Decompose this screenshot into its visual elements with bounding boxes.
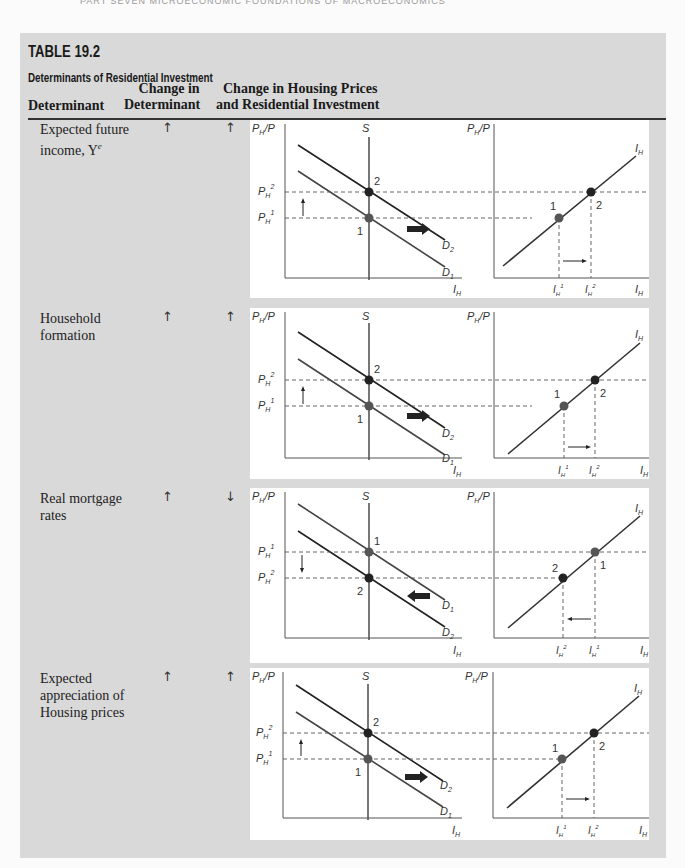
row-1-diagram-svg: PH/P S PH2 PH1 2 1 D2 D1 IH PH/P — [250, 120, 649, 298]
svg-text:1: 1 — [600, 559, 606, 571]
running-head: PART SEVEN MICROECONOMIC FOUNDATIONS OF … — [80, 0, 446, 6]
row-3-result-arrow: ↓ — [225, 489, 236, 504]
row-3-change-arrow: ↑ — [162, 489, 173, 504]
svg-text:PH/P: PH/P — [465, 670, 488, 684]
svg-text:PH/P: PH/P — [252, 490, 275, 504]
svg-text:1: 1 — [374, 535, 380, 547]
investment-graph: PH/P IH 1 2 IH1 IH2 IH — [467, 122, 649, 297]
row-4-diagram: PH/P S PH2 PH1 2 1 D2 D1 IH PH/P — [250, 668, 649, 840]
row-3-label-line1: Real mortgage — [40, 490, 210, 507]
svg-text:IH: IH — [640, 464, 649, 478]
svg-text:2: 2 — [374, 363, 380, 375]
svg-text:PH1: PH1 — [258, 209, 274, 225]
svg-text:PH/P: PH/P — [252, 310, 275, 324]
svg-text:PH/P: PH/P — [467, 310, 490, 324]
row-1-diagram: PH/P S PH2 PH1 2 1 D2 D1 IH PH/P — [250, 120, 649, 298]
svg-text:IH: IH — [453, 644, 462, 658]
svg-text:S: S — [362, 670, 370, 682]
column-header-determinant: Determinant — [28, 98, 104, 114]
svg-text:D2: D2 — [440, 779, 452, 793]
column-header-result-line2: and Residential Investment — [216, 97, 379, 113]
svg-text:PH/P: PH/P — [252, 670, 275, 684]
row-3-label-line2: rates — [40, 507, 210, 524]
housing-market-graph: PH/P S PH2 PH1 2 1 D2 D1 IH — [252, 310, 649, 478]
row-1-result-arrow: ↑ — [225, 120, 236, 135]
svg-text:PH2: PH2 — [256, 724, 272, 740]
svg-text:IH2: IH2 — [589, 464, 600, 478]
svg-text:IH: IH — [453, 464, 462, 478]
column-header-change-line2: Determinant — [124, 97, 200, 113]
svg-text:IH2: IH2 — [556, 644, 567, 658]
row-4-diagram-svg: PH/P S PH2 PH1 2 1 D2 D1 IH PH/P — [250, 668, 649, 840]
row-2-label-line2: formation — [40, 327, 210, 344]
svg-text:IH: IH — [452, 824, 461, 838]
svg-text:S: S — [362, 490, 370, 502]
row-4-determinant: Expected appreciation of Housing prices — [40, 670, 210, 721]
svg-text:PH2: PH2 — [258, 569, 274, 585]
svg-text:2: 2 — [357, 585, 363, 597]
svg-text:PH1: PH1 — [256, 750, 272, 766]
svg-text:1: 1 — [355, 766, 361, 778]
row-1-change-arrow: ↑ — [162, 120, 173, 135]
row-1-determinant: Expected future income, Ye — [40, 121, 210, 159]
row-3-diagram: PH/P S PH1 PH2 1 2 D1 D2 IH PH/P — [250, 488, 649, 663]
row-2-label-line1: Household — [40, 310, 210, 327]
row-1-label-sup: e — [98, 141, 102, 151]
svg-text:1: 1 — [550, 200, 556, 212]
row-2-diagram: PH/P S PH2 PH1 2 1 D2 D1 IH PH/P — [250, 308, 649, 479]
svg-text:2: 2 — [552, 562, 558, 574]
row-2-diagram-svg: PH/P S PH2 PH1 2 1 D2 D1 IH PH/P — [250, 308, 649, 479]
housing-market-graph: PH/P S PH2 PH1 2 1 D2 D1 IH — [252, 122, 649, 297]
column-header-change-line1: Change in — [124, 81, 200, 97]
svg-text:PH2: PH2 — [258, 183, 274, 199]
investment-graph: PH/P IH 2 1 IH2 IH1 IH — [467, 490, 649, 658]
svg-text:IH: IH — [635, 328, 644, 342]
svg-text:IH: IH — [639, 824, 648, 838]
housing-market-graph: PH/P S PH1 PH2 1 2 D1 D2 IH — [252, 490, 649, 658]
svg-text:IH1: IH1 — [558, 464, 568, 478]
svg-text:IH: IH — [635, 283, 644, 297]
row-4-change-arrow: ↑ — [162, 669, 173, 684]
svg-text:1: 1 — [357, 225, 363, 237]
svg-text:2: 2 — [600, 387, 606, 399]
svg-text:PH/P: PH/P — [252, 122, 275, 136]
row-1-label-line2: income, Ye — [40, 138, 210, 159]
svg-text:1: 1 — [552, 742, 558, 754]
svg-text:2: 2 — [373, 716, 379, 728]
row-3-determinant: Real mortgage rates — [40, 490, 210, 524]
svg-text:2: 2 — [374, 175, 380, 187]
column-header-change: Change in Determinant — [124, 81, 200, 113]
svg-text:IH: IH — [640, 644, 649, 658]
svg-text:D2: D2 — [442, 239, 454, 253]
svg-text:2: 2 — [599, 740, 605, 752]
svg-text:S: S — [362, 122, 370, 134]
column-header-result: Change in Housing Prices and Residential… — [216, 81, 379, 113]
svg-text:PH1: PH1 — [258, 543, 274, 559]
row-2-change-arrow: ↑ — [162, 309, 173, 324]
row-2-determinant: Household formation — [40, 310, 210, 344]
row-4-label-line3: Housing prices — [40, 704, 210, 721]
svg-text:PH2: PH2 — [258, 371, 274, 387]
svg-text:IH: IH — [635, 502, 644, 516]
row-3-diagram-svg: PH/P S PH1 PH2 1 2 D1 D2 IH PH/P — [250, 488, 649, 663]
svg-text:IH2: IH2 — [588, 824, 599, 838]
investment-graph: PH/P IH 1 2 IH1 IH2 IH — [465, 670, 649, 838]
column-header-result-line1: Change in Housing Prices — [216, 81, 379, 97]
svg-text:PH/P: PH/P — [467, 490, 490, 504]
svg-text:IH1: IH1 — [553, 283, 563, 297]
svg-text:PH1: PH1 — [258, 397, 274, 413]
svg-text:D1: D1 — [442, 266, 454, 280]
housing-market-graph: PH/P S PH2 PH1 2 1 D2 D1 IH — [252, 670, 649, 838]
row-1-label-line1: Expected future — [40, 121, 210, 138]
svg-text:IH2: IH2 — [585, 283, 596, 297]
svg-text:IH1: IH1 — [556, 824, 566, 838]
svg-text:S: S — [362, 310, 370, 322]
svg-text:D2: D2 — [442, 626, 454, 640]
svg-text:PH/P: PH/P — [467, 122, 490, 136]
svg-text:1: 1 — [357, 413, 363, 425]
svg-text:D1: D1 — [442, 599, 454, 613]
svg-text:IH1: IH1 — [589, 644, 599, 658]
svg-text:IH: IH — [453, 283, 462, 297]
row-4-label-line2: appreciation of — [40, 687, 210, 704]
svg-text:IH: IH — [635, 142, 644, 156]
